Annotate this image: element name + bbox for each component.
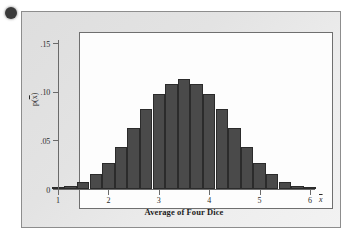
x-axis-tick-label: 6 <box>308 196 312 205</box>
histogram-bar <box>203 94 216 189</box>
x-axis-tick <box>260 190 261 195</box>
histogram-bar <box>279 182 292 189</box>
histogram-bar <box>266 174 279 189</box>
figure-container: .15.10.050 123456 p(x) Average of Four D… <box>21 11 341 228</box>
histogram-bar <box>241 147 254 189</box>
histogram-bar <box>153 94 166 189</box>
histogram-bar <box>178 79 191 189</box>
histogram-bar <box>102 163 115 189</box>
y-axis-tick: .05 <box>53 140 59 141</box>
y-axis-tick-label: .10 <box>41 88 50 97</box>
x-axis-tick-label: 3 <box>157 196 161 205</box>
x-axis-tick <box>159 190 160 195</box>
bullet-marker <box>5 7 17 19</box>
x-axis-line <box>58 189 315 190</box>
y-axis-tick-label: .15 <box>41 39 50 48</box>
y-axis-tick-label: .05 <box>41 136 50 145</box>
histogram-bars <box>58 43 310 189</box>
x-axis-tick <box>108 190 109 195</box>
x-axis-tick-label: 5 <box>258 196 262 205</box>
histogram-bar <box>253 163 266 189</box>
histogram-bar <box>90 174 103 189</box>
y-axis-label: p(x) <box>30 93 39 106</box>
x-axis-tick-label: 4 <box>207 196 211 205</box>
x-axis-title: Average of Four Dice <box>58 207 310 217</box>
plot-area <box>58 43 310 189</box>
y-axis-tick-label: 0 <box>46 185 50 194</box>
histogram-bar <box>228 128 241 189</box>
histogram-bar <box>190 84 203 189</box>
histogram-bar <box>127 128 140 189</box>
y-axis-line <box>58 40 59 189</box>
x-axis-tick <box>209 190 210 195</box>
x-axis-tick-label: 2 <box>106 196 110 205</box>
x-axis-tick <box>310 190 311 195</box>
x-variable-symbol: x <box>319 195 323 204</box>
x-axis-tick-label: 1 <box>56 196 60 205</box>
y-axis-tick: .10 <box>53 92 59 93</box>
histogram-bar <box>216 109 229 189</box>
histogram-bar <box>115 147 128 189</box>
x-axis-tick <box>58 190 59 195</box>
histogram-bar <box>165 84 178 189</box>
histogram-bar <box>77 182 90 189</box>
y-axis-label-text: p(x) <box>30 93 39 106</box>
y-axis-tick: .15 <box>53 43 59 44</box>
histogram-bar <box>140 109 153 189</box>
